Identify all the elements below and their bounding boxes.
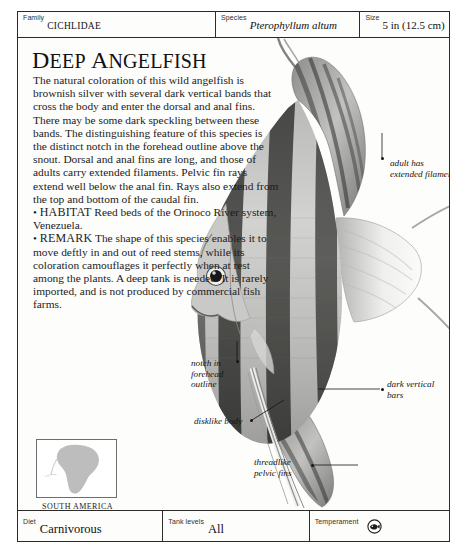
callout-forehead-notch-line2: forehead — [191, 369, 223, 380]
fish-temperament-icon — [367, 519, 382, 538]
callout-forehead-notch-line3: outline — [191, 379, 223, 390]
header-field-size-label: Size — [365, 14, 379, 21]
callout-adult-filaments-line1: adult has — [390, 158, 449, 169]
callout-dark-vertical-bars-line1: dark vertical — [387, 379, 434, 390]
map-caption: SOUTH AMERICA — [36, 502, 119, 510]
callout-dark-vertical-bars: dark vertical bars — [387, 379, 434, 400]
header-fields-row: FamilyCICHLIDAE SpeciesPterophyllum altu… — [18, 12, 449, 38]
footer-field-temperament-label: Temperament — [315, 518, 359, 525]
callout-dot-notch — [236, 360, 239, 363]
callout-threadlike-pelvic-fins-line2: pelvic fins — [254, 468, 292, 479]
header-field-family: FamilyCICHLIDAE — [18, 12, 215, 37]
footer-field-tank-levels-label: Tank levels — [168, 518, 204, 525]
callout-dot-filaments — [381, 157, 384, 160]
footer-fields-row: DietCarnivorous Tank levelsAll Temperame… — [18, 510, 449, 541]
callout-forehead-notch-line1: notch in — [191, 358, 223, 369]
callout-adult-filaments-line2: extended filaments — [390, 169, 449, 180]
footer-field-diet-label: Diet — [23, 518, 36, 525]
callout-dot-disk — [250, 419, 253, 422]
callout-threadlike-pelvic-fins-line1: threadlike — [254, 457, 292, 468]
callout-dot-pelvic — [311, 464, 314, 467]
header-field-family-value: CICHLIDAE — [47, 21, 101, 31]
header-field-size: Size5 in (12.5 cm) — [359, 12, 449, 37]
distribution-map-block: SOUTH AMERICA — [36, 439, 119, 510]
header-field-species-label: Species — [221, 14, 247, 21]
callout-forehead-notch: notch in forehead outline — [191, 358, 223, 390]
reference-page: FamilyCICHLIDAE SpeciesPterophyllum altu… — [17, 11, 450, 542]
callout-dark-vertical-bars-line2: bars — [387, 390, 434, 401]
callout-adult-filaments: adult has extended filaments — [390, 158, 449, 179]
callout-disklike-body-line1: disklike body — [194, 416, 242, 427]
footer-field-tank-levels: Tank levelsAll — [162, 511, 308, 541]
header-field-size-value: 5 in (12.5 cm) — [382, 19, 444, 31]
footer-field-tank-levels-value: All — [208, 522, 224, 536]
distribution-map-frame — [36, 439, 117, 498]
callout-dot-bars — [381, 388, 384, 391]
south-america-map-icon — [37, 440, 116, 497]
callout-threadlike-pelvic-fins: threadlike pelvic fins — [254, 457, 292, 478]
header-field-family-label: Family — [23, 14, 44, 21]
page-body: DEEP ANGELFISH — [18, 38, 449, 510]
footer-field-diet-value: Carnivorous — [40, 522, 102, 536]
footer-field-temperament: Temperament — [309, 511, 449, 541]
callout-disklike-body: disklike body — [194, 416, 242, 427]
header-field-species-value: Pterophyllum altum — [250, 19, 337, 31]
header-field-species: SpeciesPterophyllum altum — [215, 12, 359, 37]
footer-field-diet: DietCarnivorous — [18, 511, 162, 541]
